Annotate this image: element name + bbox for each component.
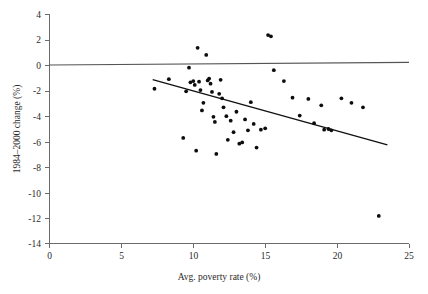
scatter-point [212,115,216,119]
scatter-point [224,114,228,118]
scatter-point [291,96,295,100]
scatter-point [167,77,171,81]
x-axis-title: Avg. poverty rate (%) [178,272,261,283]
y-tick-label: -8 [33,163,41,173]
scatter-point [232,130,236,134]
scatter-point [340,96,344,100]
scatter-point [298,114,302,118]
scatter-point [207,77,211,81]
scatter-point [214,152,218,156]
scatter-point [269,34,273,38]
scatter-point [187,66,191,70]
scatter-point [255,146,259,150]
scatter-point [243,118,247,122]
scatter-point [329,128,333,132]
scatter-point [306,97,310,101]
chart-canvas: 4 2 0 -2 -4 -6 -8 -10 -12 -14 0 5 10 15 … [0,0,428,294]
scatter-point [249,100,253,104]
x-tick-label: 20 [333,251,343,261]
x-tick-label: 10 [189,251,199,261]
y-tick-label: -10 [28,189,41,199]
scatter-points-layer [153,33,381,218]
scatter-point [377,214,381,218]
scatter-point [312,121,316,125]
y-tick-label: -14 [28,239,41,249]
scatter-point [235,110,239,114]
x-tick-label: 25 [404,251,414,261]
y-tick-label: -6 [33,138,41,148]
y-tick-label: -2 [33,86,41,96]
scatter-point [322,128,326,132]
scatter-point [350,101,354,105]
scatter-point [194,149,198,153]
scatter-point [201,101,205,105]
scatter-point [196,46,200,50]
scatter-point [213,120,217,124]
scatter-point [209,82,213,86]
scatter-point [184,89,188,93]
scatter-point [217,92,221,96]
scatter-point [181,136,185,140]
regression-trend-line [153,80,388,145]
zero-reference-line [49,62,409,65]
y-tick-label: 0 [36,61,41,71]
scatter-point [246,128,250,132]
scatter-point [200,109,204,113]
y-tick-label: 4 [36,10,41,20]
scatter-point [259,128,263,132]
y-tick-label: 2 [36,35,41,45]
scatter-point [361,105,365,109]
scatter-point [219,78,223,82]
scatter-point [199,88,203,92]
scatter-point [272,68,276,72]
scatter-point [282,79,286,83]
scatter-point [226,138,230,142]
scatter-point [229,119,233,123]
x-axis-ticks [50,244,410,248]
y-tick-label: -12 [28,214,41,224]
scatter-point [210,90,214,94]
x-axis-tick-labels: 0 5 10 15 20 25 [47,251,414,261]
y-tick-label: -4 [33,112,41,122]
y-axis-ticks [45,15,49,244]
scatter-point [220,96,224,100]
scatter-point [252,122,256,126]
x-tick-label: 0 [47,251,52,261]
y-axis-tick-labels: 4 2 0 -2 -4 -6 -8 -10 -12 -14 [28,10,41,249]
scatter-point [153,87,157,91]
scatter-plot-figure: 4 2 0 -2 -4 -6 -8 -10 -12 -14 0 5 10 15 … [0,0,428,294]
scatter-point [240,141,244,145]
scatter-point [319,103,323,107]
scatter-point [197,80,201,84]
scatter-point [263,126,267,130]
scatter-point [204,53,208,57]
scatter-point [222,105,226,109]
x-tick-label: 5 [119,251,124,261]
scatter-point [193,83,197,87]
x-tick-label: 15 [261,251,271,261]
scatter-point [191,79,195,83]
y-axis-title: 1984–2000 change (%) [12,85,23,174]
